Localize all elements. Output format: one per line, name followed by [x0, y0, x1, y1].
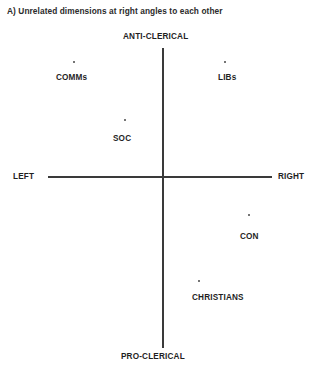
data-point-label-libs: LIBs: [218, 73, 236, 82]
data-point-comms: [73, 61, 75, 63]
figure-panel: A) Unrelated dimensions at right angles …: [0, 0, 317, 377]
data-point-con: [248, 214, 250, 216]
data-point-label-christians: CHRISTIANS: [192, 293, 244, 302]
axis-label-anti-clerical: ANTI-CLERICAL: [123, 32, 188, 41]
vertical-axis-line: [162, 48, 164, 348]
data-point-label-con: CON: [240, 232, 259, 241]
data-point-label-soc: SOC: [113, 134, 131, 143]
axis-label-left: LEFT: [13, 172, 34, 181]
data-point-libs: [224, 61, 226, 63]
figure-caption: A) Unrelated dimensions at right angles …: [7, 6, 223, 16]
data-point-soc: [124, 119, 126, 121]
data-point-christians: [198, 280, 200, 282]
horizontal-axis-line: [48, 176, 272, 178]
axis-label-right: RIGHT: [278, 172, 304, 181]
data-point-label-comms: COMMs: [56, 73, 87, 82]
axis-label-pro-clerical: PRO-CLERICAL: [121, 352, 185, 361]
